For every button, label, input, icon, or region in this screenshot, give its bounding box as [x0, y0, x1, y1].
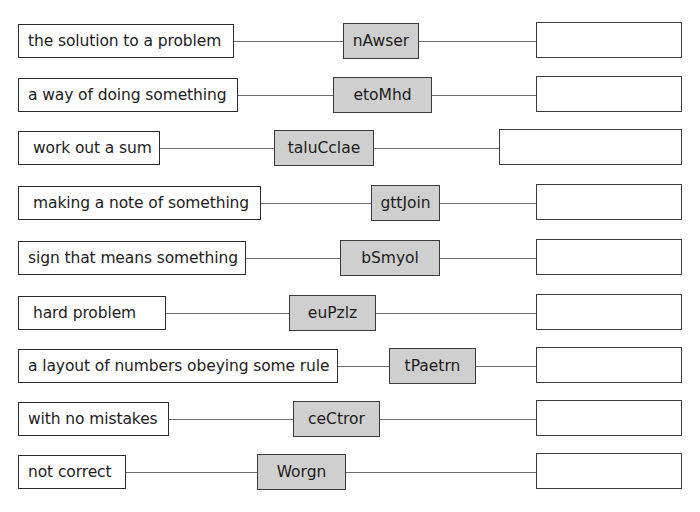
clue-box: the solution to a problem	[18, 24, 234, 58]
anagram-box: ceCtror	[293, 401, 380, 437]
clue-box: with no mistakes	[18, 402, 169, 436]
answer-input[interactable]	[536, 294, 682, 330]
worksheet-row: not correct Worgn	[0, 455, 700, 491]
anagram-box: gttJoin	[371, 185, 440, 221]
worksheet-row: the solution to a problem nAwser	[0, 24, 700, 60]
clue-box: sign that means something	[18, 241, 246, 275]
word-match-worksheet: the solution to a problem nAwser a way o…	[0, 0, 700, 512]
anagram-box: taluCclae	[274, 130, 374, 166]
clue-box: making a note of something	[18, 186, 261, 220]
anagram-box: etoMhd	[333, 77, 432, 113]
worksheet-row: sign that means something bSmyol	[0, 241, 700, 277]
anagram-box: bSmyol	[340, 240, 440, 276]
clue-box: hard problem	[18, 296, 166, 330]
answer-input[interactable]	[536, 239, 682, 275]
answer-input[interactable]	[536, 184, 682, 220]
answer-input[interactable]	[536, 453, 682, 489]
answer-input[interactable]	[499, 129, 682, 165]
worksheet-row: making a note of something gttJoin	[0, 186, 700, 222]
worksheet-row: with no mistakes ceCtror	[0, 402, 700, 438]
answer-input[interactable]	[536, 22, 682, 58]
clue-box: not correct	[18, 455, 126, 489]
answer-input[interactable]	[536, 400, 682, 436]
worksheet-row: a layout of numbers obeying some rule tP…	[0, 349, 700, 385]
answer-input[interactable]	[536, 347, 682, 383]
clue-box: a layout of numbers obeying some rule	[18, 349, 338, 383]
anagram-box: Worgn	[257, 454, 346, 490]
answer-input[interactable]	[536, 76, 682, 112]
anagram-box: euPzlz	[289, 295, 376, 331]
worksheet-row: hard problem euPzlz	[0, 296, 700, 332]
clue-box: work out a sum	[18, 131, 160, 165]
worksheet-row: work out a sum taluCclae	[0, 131, 700, 167]
clue-box: a way of doing something	[18, 78, 238, 112]
worksheet-row: a way of doing something etoMhd	[0, 78, 700, 114]
anagram-box: nAwser	[343, 23, 419, 59]
anagram-box: tPaetrn	[389, 348, 476, 384]
